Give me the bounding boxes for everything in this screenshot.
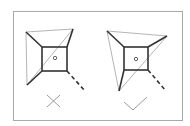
connector-tr [148, 36, 167, 47]
outer-edge-left [26, 32, 27, 85]
inner-square [42, 47, 67, 71]
cross-icon [47, 95, 60, 107]
panel-correct [107, 31, 167, 110]
check-icon [124, 97, 147, 110]
center-dot [53, 56, 56, 59]
connector-tr [67, 29, 73, 47]
outer-diagonal [27, 29, 73, 85]
diagram-canvas [0, 0, 190, 126]
center-dot [134, 57, 137, 60]
dashed-tail [148, 70, 166, 91]
dashed-tail [67, 71, 85, 91]
inner-square [124, 47, 148, 70]
outer-edge-top [107, 31, 167, 36]
panel-incorrect [26, 29, 85, 107]
connector-tl [26, 32, 42, 47]
diagram-frame [14, 12, 183, 121]
connector-bl [27, 71, 42, 85]
outer-edge-top [26, 29, 73, 32]
